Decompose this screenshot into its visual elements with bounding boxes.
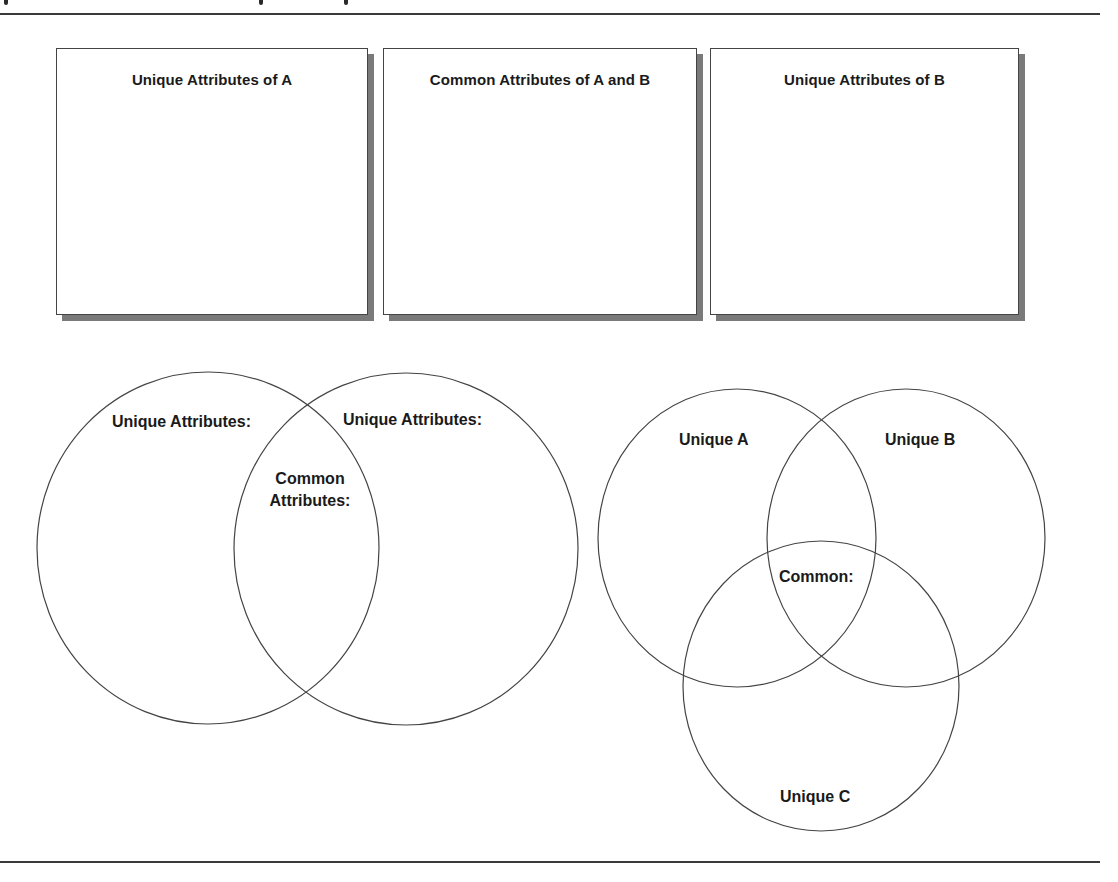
top-rule bbox=[0, 13, 1100, 15]
cropped-caption-fragment bbox=[4, 0, 8, 5]
venn3-unique-a-label: Unique A bbox=[679, 429, 749, 451]
venn-common-label-line1: Common bbox=[262, 468, 358, 490]
venn3-common-label: Common: bbox=[779, 566, 854, 588]
venn-left-unique-label: Unique Attributes: bbox=[112, 411, 251, 433]
venn3-unique-b-label: Unique B bbox=[885, 429, 955, 451]
box-title: Unique Attributes of A bbox=[57, 71, 367, 88]
venn-common-label-line2: Attributes: bbox=[262, 490, 358, 512]
venn3-unique-c-label: Unique C bbox=[780, 786, 850, 808]
three-circle-venn bbox=[598, 389, 1045, 831]
unique-attributes-b-box[interactable]: Unique Attributes of B bbox=[710, 48, 1019, 315]
box-title: Unique Attributes of B bbox=[711, 71, 1018, 88]
bottom-rule bbox=[0, 861, 1100, 863]
common-attributes-box[interactable]: Common Attributes of A and B bbox=[383, 48, 697, 315]
cropped-caption-fragment bbox=[259, 0, 263, 5]
venn-common-label: Common Attributes: bbox=[262, 468, 358, 512]
venn-right-unique-label: Unique Attributes: bbox=[343, 409, 482, 431]
box-title: Common Attributes of A and B bbox=[384, 71, 696, 88]
unique-attributes-a-box[interactable]: Unique Attributes of A bbox=[56, 48, 368, 315]
cropped-caption-fragment bbox=[344, 0, 348, 5]
